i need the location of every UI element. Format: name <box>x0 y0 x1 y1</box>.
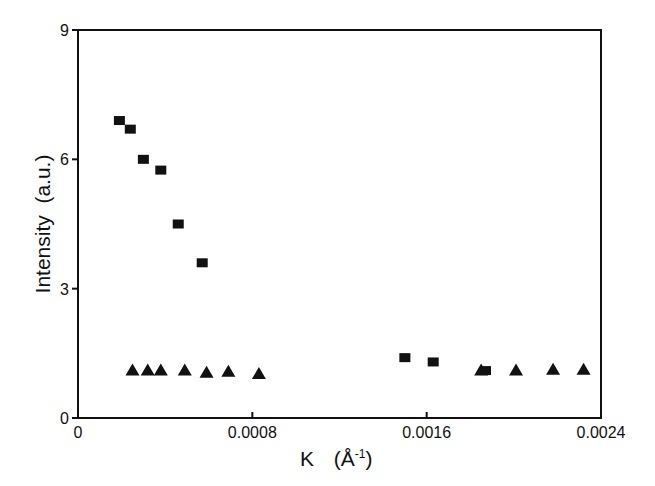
x-axis-title-unit: (Å <box>334 447 355 470</box>
y-tick-label: 6 <box>60 151 69 168</box>
y-axis-title: Intensity (a.u.) <box>31 155 54 294</box>
y-tick-label: 0 <box>60 410 69 427</box>
x-tick-label: 0.0008 <box>228 424 277 441</box>
square-marker <box>138 155 149 164</box>
square-marker <box>114 116 125 125</box>
square-marker <box>173 220 184 229</box>
square-marker <box>125 125 136 134</box>
triangle-marker <box>125 364 139 376</box>
scatter-chart: 0369 00.00080.00160.0024 K (Å-1) Intensi… <box>0 0 655 486</box>
x-axis-title-close: ) <box>366 447 373 470</box>
y-tick-label: 3 <box>60 281 69 298</box>
y-tick-label: 9 <box>60 22 69 39</box>
triangle-marker <box>200 366 214 378</box>
x-tick-label: 0.0024 <box>577 424 626 441</box>
triangle-marker <box>221 365 235 377</box>
triangle-marker <box>577 363 591 375</box>
square-marker <box>197 258 208 267</box>
data-series <box>114 116 591 379</box>
triangle-marker <box>252 367 266 379</box>
triangle-marker <box>141 364 155 376</box>
plot-frame <box>78 30 601 418</box>
triangle-marker <box>509 364 523 376</box>
x-axis-title-symbol: K <box>300 447 314 470</box>
x-axis-title: K (Å-1) <box>300 447 373 470</box>
series-triangles <box>125 363 590 379</box>
triangle-marker <box>178 364 192 376</box>
x-tick-label: 0.0016 <box>402 424 451 441</box>
series-squares <box>114 116 491 375</box>
triangle-marker <box>546 363 560 375</box>
triangle-marker <box>154 364 168 376</box>
x-axis-ticks: 00.00080.00160.0024 <box>74 412 626 441</box>
x-tick-label: 0 <box>74 424 83 441</box>
x-axis-title-superscript: -1 <box>355 447 366 461</box>
y-axis-ticks: 0369 <box>60 22 78 427</box>
square-marker <box>428 357 439 366</box>
square-marker <box>155 166 166 175</box>
square-marker <box>399 353 410 362</box>
